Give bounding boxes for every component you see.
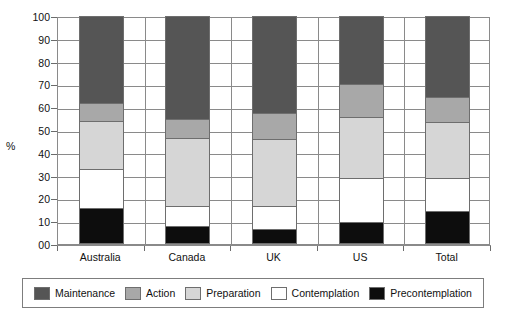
segment-contemplation[interactable] [165, 206, 210, 225]
x-axis-tick [230, 246, 231, 251]
segment-precontemplation[interactable] [425, 211, 470, 244]
y-axis-tick-label: 30 [2, 172, 50, 183]
y-axis-tick-label: 40 [2, 149, 50, 160]
legend-item-maintenance[interactable]: Maintenance [34, 287, 115, 300]
segment-precontemplation[interactable] [252, 229, 297, 244]
y-axis-tick [51, 63, 57, 64]
x-axis-label-us: US [317, 252, 404, 263]
segment-precontemplation[interactable] [79, 208, 124, 244]
segment-action[interactable] [79, 103, 124, 121]
legend-swatch-contemplation [271, 287, 287, 300]
x-axis-label-canada: Canada [144, 252, 231, 263]
x-axis-tick [144, 246, 145, 251]
bar-uk[interactable] [252, 16, 297, 244]
bar-us[interactable] [339, 16, 384, 244]
legend-swatch-action [125, 287, 141, 300]
segment-action[interactable] [425, 97, 470, 122]
segment-preparation[interactable] [425, 122, 470, 178]
legend-swatch-maintenance [34, 287, 50, 300]
x-axis-label-total: Total [403, 252, 490, 263]
x-axis-tick [403, 246, 404, 251]
y-axis-tick-label: 50 [2, 126, 50, 137]
legend-label: Action [146, 288, 175, 299]
legend-item-precontemplation[interactable]: Precontemplation [369, 287, 472, 300]
y-axis-tick [51, 199, 57, 200]
x-axis-tick [490, 246, 491, 251]
y-axis-tick [51, 40, 57, 41]
legend-item-preparation[interactable]: Preparation [185, 287, 260, 300]
y-axis-tick-label: 100 [2, 12, 50, 23]
segment-maintenance[interactable] [79, 16, 124, 103]
bar-australia[interactable] [79, 16, 124, 244]
legend-swatch-precontemplation [369, 287, 385, 300]
x-axis-line [57, 245, 491, 246]
legend-item-contemplation[interactable]: Contemplation [271, 287, 360, 300]
stacked-bar-chart: % 00102030405060708090100 MaintenanceAct… [0, 0, 506, 320]
segment-preparation[interactable] [165, 138, 210, 206]
plot-area [57, 17, 490, 245]
chart-legend: MaintenanceActionPreparationContemplatio… [22, 278, 484, 308]
x-axis-label-australia: Australia [57, 252, 144, 263]
segment-maintenance[interactable] [339, 16, 384, 84]
bar-total[interactable] [425, 16, 470, 244]
segment-preparation[interactable] [252, 139, 297, 206]
x-axis-label-uk: UK [230, 252, 317, 263]
y-axis-tick [51, 154, 57, 155]
segment-contemplation[interactable] [252, 206, 297, 229]
y-axis-tick [51, 131, 57, 132]
category-separator [231, 18, 232, 244]
segment-action[interactable] [252, 113, 297, 139]
y-axis-tick [51, 108, 57, 109]
y-axis-tick-label: 10 [2, 217, 50, 228]
category-separator [145, 18, 146, 244]
segment-maintenance[interactable] [425, 16, 470, 97]
legend-item-action[interactable]: Action [125, 287, 175, 300]
legend-label: Preparation [206, 288, 260, 299]
segment-contemplation[interactable] [79, 169, 124, 208]
segment-precontemplation[interactable] [339, 222, 384, 244]
segment-action[interactable] [165, 119, 210, 138]
y-axis-tick [51, 177, 57, 178]
y-axis-tick-label: 70 [2, 80, 50, 91]
category-separator [404, 18, 405, 244]
segment-precontemplation[interactable] [165, 226, 210, 244]
legend-swatch-preparation [185, 287, 201, 300]
y-axis-tick [51, 222, 57, 223]
segment-action[interactable] [339, 84, 384, 117]
segment-preparation[interactable] [79, 121, 124, 169]
legend-label: Precontemplation [390, 288, 472, 299]
legend-label: Contemplation [292, 288, 360, 299]
legend-label: Maintenance [55, 288, 115, 299]
bar-canada[interactable] [165, 16, 210, 244]
y-axis-tick-label: 20 [2, 194, 50, 205]
y-axis-tick [51, 85, 57, 86]
segment-maintenance[interactable] [252, 16, 297, 113]
y-axis-tick-label: 60 [2, 103, 50, 114]
segment-preparation[interactable] [339, 117, 384, 177]
x-axis-tick [317, 246, 318, 251]
y-axis-tick-labels: 00102030405060708090100 [0, 0, 50, 320]
y-axis-tick-label: 00 [2, 240, 50, 251]
segment-maintenance[interactable] [165, 16, 210, 119]
y-axis-tick-label: 90 [2, 35, 50, 46]
segment-contemplation[interactable] [425, 178, 470, 211]
x-axis-tick [57, 246, 58, 251]
segment-contemplation[interactable] [339, 178, 384, 222]
y-axis-tick [51, 17, 57, 18]
y-axis-tick-label: 80 [2, 58, 50, 69]
category-separator [318, 18, 319, 244]
